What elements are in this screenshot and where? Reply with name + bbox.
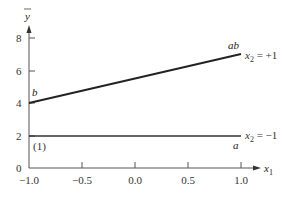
y-axis-arrow-icon bbox=[27, 25, 32, 33]
x-tick-1: 1.0 bbox=[234, 174, 248, 186]
point-label-1: (1) bbox=[33, 140, 46, 153]
y-tick-4: 4 bbox=[16, 97, 22, 109]
x-tick-0: 0.0 bbox=[128, 174, 142, 186]
x-axis-label: x1 bbox=[263, 162, 273, 177]
series-label-x2-minus: x2 = −1 bbox=[244, 129, 277, 144]
point-label-b: b bbox=[32, 86, 38, 98]
x-tick-neg1: −1.0 bbox=[19, 174, 39, 186]
series-label-x2-plus: x2 = +1 bbox=[244, 49, 277, 64]
y-tick-0: 0 bbox=[16, 162, 22, 174]
x-tick-05: 0.5 bbox=[181, 174, 195, 186]
y-tick-8: 8 bbox=[16, 32, 22, 44]
x-tick-neg05: −0.5 bbox=[72, 174, 92, 186]
point-label-ab: ab bbox=[228, 39, 240, 51]
x-axis-arrow-icon bbox=[253, 166, 261, 171]
series-line-x2-plus bbox=[29, 54, 241, 103]
y-tick-2: 2 bbox=[16, 130, 22, 142]
interaction-plot: y x1 0 2 4 6 8 −1.0 −0.5 0.0 0.5 1.0 b a… bbox=[0, 0, 296, 198]
x-ticks bbox=[82, 162, 241, 168]
y-tick-6: 6 bbox=[16, 65, 22, 77]
y-axis-label: y bbox=[24, 10, 30, 22]
point-label-a: a bbox=[233, 139, 239, 151]
